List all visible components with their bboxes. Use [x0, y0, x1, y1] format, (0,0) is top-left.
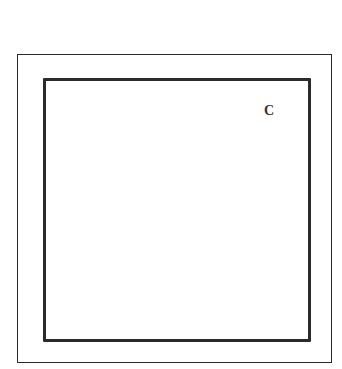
- region-label-c: C: [264, 104, 274, 118]
